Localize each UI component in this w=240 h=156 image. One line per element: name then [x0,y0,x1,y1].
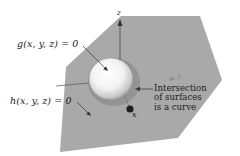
z-axis-label: z [117,10,121,17]
intersection-note-line-3: is a curve [154,103,207,112]
figure-canvas [0,0,240,156]
x-axis-label: x [132,111,137,119]
y-axis-label: y [177,73,181,80]
sphere-g-surface [89,58,133,100]
surface-intersection-figure: g(x, y, z) = 0 h(x, y, z) = 0 Intersecti… [0,0,240,156]
h-surface-label: h(x, y, z) = 0 [10,96,72,106]
intersection-note: Intersection of surfaces is a curve [154,84,207,112]
g-surface-label: g(x, y, z) = 0 [17,39,79,49]
